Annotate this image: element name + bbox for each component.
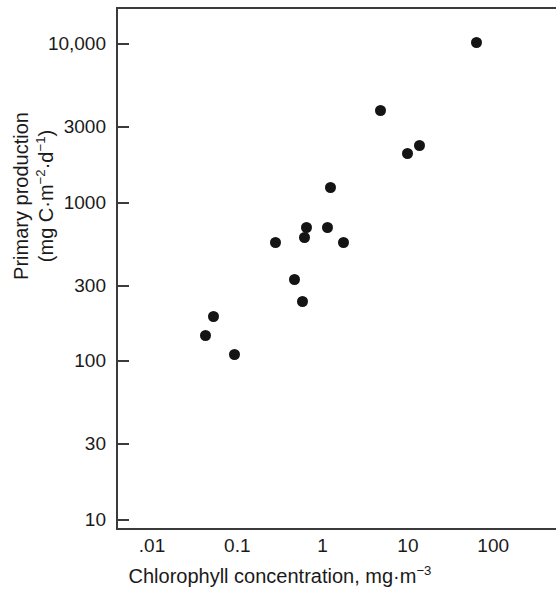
y-tick-3000 [116,126,129,128]
y-tick-300 [116,285,129,287]
y-tick-label-3000: 3000 [64,117,106,136]
y-tick-label-1000: 1000 [64,193,106,212]
y-axis-title-line2: (mg C·m−2·d−1) [34,66,59,326]
x-axis-title: Chlorophyll concentration, mg·m−3 [0,565,560,587]
y-tick-label-10: 10 [85,510,106,529]
scatter-plot-figure: 10,000300010003001003010 .010.1110100 Pr… [0,0,560,596]
y-axis-title-line1: Primary production [10,112,32,280]
y-tick-100 [116,360,129,362]
x-tick-label-1: 1 [317,536,328,555]
y-tick-label-300: 300 [74,276,106,295]
x-tick-label-0p1: 0.1 [224,536,250,555]
y-axis-title: Primary production (mg C·m−2·d−1) [9,66,59,326]
x-tick-label-10: 10 [397,536,418,555]
x-tick-label-100: 100 [477,536,509,555]
y-tick-label-30: 30 [85,434,106,453]
y-tick-label-10000: 10,000 [48,34,106,53]
y-tick-30 [116,443,129,445]
y-tick-10000 [116,43,129,45]
plot-area [116,7,556,530]
x-tick-label-0p01: .01 [139,536,165,555]
y-tick-1000 [116,202,129,204]
y-tick-label-100: 100 [74,351,106,370]
y-tick-10 [116,519,129,521]
